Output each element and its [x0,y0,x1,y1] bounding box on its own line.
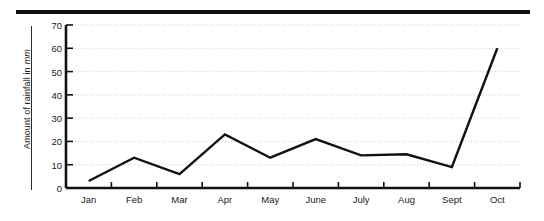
rainfall-line-chart-figure: Amount of rainfall in mm 706050403020100… [0,0,544,221]
plot-svg [66,25,520,188]
rainfall-data-line [89,48,498,181]
y-axis-tick-label: 50 [34,66,62,77]
axis-lines-group [66,25,520,188]
y-axis-tick-labels: 706050403020100 [34,0,62,221]
y-axis-title-divider [31,26,32,190]
gridlines-group [66,25,520,188]
top-horizontal-rule [16,10,530,14]
y-axis-title-container: Amount of rainfall in mm [6,24,32,190]
x-axis-tick-labels: JanFebMarAprMayJuneJulyAugSeptOct [66,194,520,210]
y-axis-tick-label: 30 [34,113,62,124]
y-axis-tick-label: 60 [34,43,62,54]
y-axis-tick-label: 70 [34,20,62,31]
plot-area [66,25,520,188]
y-axis-tick-label: 40 [34,89,62,100]
y-axis-tick-label: 0 [34,183,62,194]
y-axis-tick-label: 20 [34,136,62,147]
x-axis-tick-label: Oct [467,194,527,205]
y-axis-tick-label: 10 [34,159,62,170]
